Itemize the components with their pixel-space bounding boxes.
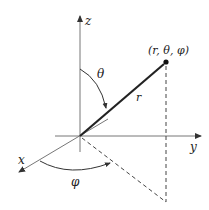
- diagram-graphics: [0, 0, 209, 210]
- phi-label: φ: [71, 176, 79, 188]
- phi-arc: [40, 161, 110, 170]
- point-label: (r, θ, φ): [148, 45, 189, 56]
- x-axis: [19, 119, 108, 172]
- z-axis-label: z: [85, 15, 91, 27]
- point-marker: [163, 59, 168, 64]
- radius-label: r: [136, 92, 141, 103]
- x-axis-label: x: [18, 154, 25, 166]
- theta-label: θ: [97, 68, 104, 80]
- radius-vector: [80, 64, 164, 136]
- spherical-coordinates-diagram: z y x (r, θ, φ) r θ φ: [0, 0, 209, 210]
- projection-ground-dashed: [82, 138, 166, 202]
- y-axis-label: y: [190, 141, 197, 153]
